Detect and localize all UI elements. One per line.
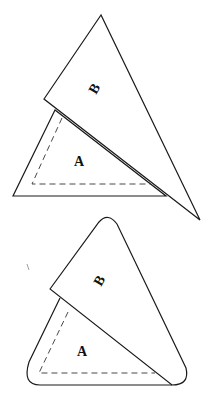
figure-sharp: A B xyxy=(13,15,200,220)
figure-rounded: A B xyxy=(27,217,187,385)
label-a-rounded: A xyxy=(77,344,88,359)
diagram-canvas: A B A B xyxy=(0,0,216,406)
stray-mark xyxy=(27,264,29,270)
label-a-sharp: A xyxy=(74,154,85,169)
